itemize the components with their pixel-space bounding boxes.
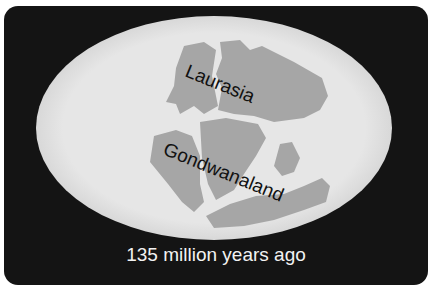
diagram-panel: Laurasia Gondwanaland 135 million years … [4,6,428,285]
time-caption: 135 million years ago [4,244,428,266]
